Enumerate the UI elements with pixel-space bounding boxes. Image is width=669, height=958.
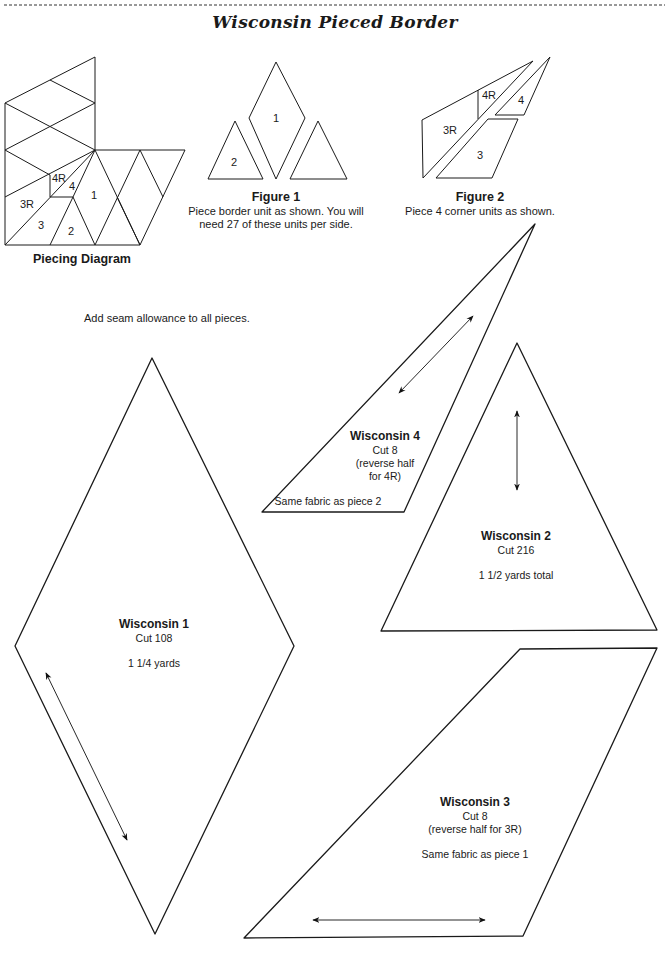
wisconsin-4-fabric: Same fabric as piece 2	[275, 495, 382, 508]
piece-label-3: 3	[38, 219, 44, 231]
wisconsin-3-cut: Cut 8	[462, 810, 487, 823]
piece-label-4r: 4R	[52, 172, 66, 184]
wisconsin-1-name: Wisconsin 1	[119, 617, 189, 631]
wisconsin-4-cut: Cut 8	[372, 444, 397, 457]
template-wisconsin-1	[15, 358, 294, 934]
template-wisconsin-2	[381, 343, 657, 631]
figure1-text-line1: Piece border unit as shown. You will	[188, 205, 364, 218]
seam-allowance-note: Add seam allowance to all pieces.	[84, 312, 250, 325]
template-wisconsin-3	[244, 648, 657, 938]
wisconsin-2-cut: Cut 216	[498, 544, 535, 557]
wisconsin-4-note-line1: (reverse half	[356, 457, 414, 470]
page-title: Wisconsin Pieced Border	[212, 12, 457, 32]
figure1-label-1: 1	[273, 112, 279, 124]
pattern-drawing	[0, 0, 669, 958]
figure2-drawing	[422, 57, 550, 178]
figure2-caption: Figure 2	[456, 190, 505, 204]
wisconsin-1-cut: Cut 108	[136, 632, 173, 645]
piecing-diagram	[5, 57, 185, 245]
figure1-text-line2: need 27 of these units per side.	[199, 218, 353, 231]
figure2-label-4r: 4R	[482, 89, 496, 101]
wisconsin-1-fabric: 1 1/4 yards	[128, 657, 180, 670]
figure1-label-2: 2	[231, 156, 237, 168]
figure2-label-3: 3	[477, 149, 483, 161]
piecing-diagram-caption: Piecing Diagram	[33, 252, 131, 266]
piece-label-2: 2	[68, 225, 74, 237]
figure1-caption: Figure 1	[252, 190, 301, 204]
figure2-text: Piece 4 corner units as shown.	[405, 205, 555, 218]
figure2-label-4: 4	[518, 94, 524, 106]
piece-label-3r: 3R	[20, 198, 34, 210]
wisconsin-4-note-line2: for 4R)	[369, 470, 401, 483]
wisconsin-3-fabric: Same fabric as piece 1	[422, 848, 529, 861]
piece-label-4: 4	[69, 180, 75, 192]
piece-label-1: 1	[91, 189, 97, 201]
figure2-label-3r: 3R	[443, 124, 457, 136]
wisconsin-2-fabric: 1 1/2 yards total	[479, 569, 554, 582]
wisconsin-3-note: (reverse half for 3R)	[428, 823, 521, 836]
wisconsin-4-name: Wisconsin 4	[350, 429, 420, 443]
grainline-arrow-icon	[46, 673, 127, 840]
wisconsin-3-name: Wisconsin 3	[440, 795, 510, 809]
wisconsin-2-name: Wisconsin 2	[481, 529, 551, 543]
